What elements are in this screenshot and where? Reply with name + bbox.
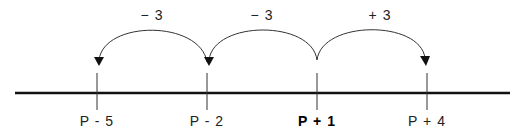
point-label-highlighted: P + 1 — [298, 113, 336, 129]
arrowhead-icon — [420, 56, 430, 66]
point-label: P + 4 — [408, 113, 446, 129]
arrowhead-icon — [204, 57, 214, 66]
jump-label: − 3 — [141, 7, 164, 23]
point-label: P - 2 — [190, 113, 224, 129]
jump-arc-plus-3 — [317, 30, 425, 60]
jump-arc-minus-3-left — [99, 30, 207, 62]
jump-label: − 3 — [251, 7, 274, 23]
arrowhead-icon — [94, 57, 104, 66]
jump-label: + 3 — [369, 7, 392, 23]
point-label: P - 5 — [80, 113, 114, 129]
jump-arc-minus-3-middle — [209, 30, 317, 60]
